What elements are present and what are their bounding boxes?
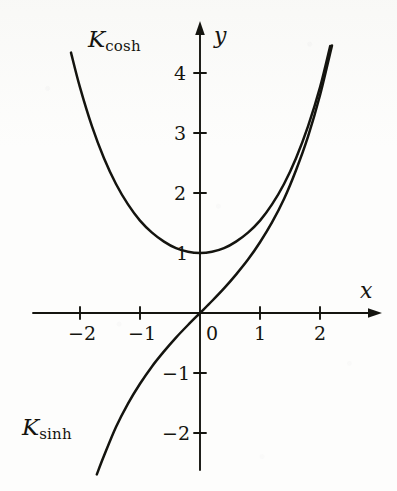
x-tick-label-2: 2 — [314, 324, 326, 343]
y-tick-label-4: 4 — [174, 64, 186, 83]
y-tick-label-3: 3 — [174, 124, 186, 143]
y-axis-label: y — [214, 25, 226, 47]
curve-label-cosh-subscript: cosh — [105, 37, 141, 55]
curve-sinh — [97, 45, 332, 474]
axes-group — [33, 21, 382, 470]
curve-label-sinh-base: K — [22, 414, 39, 440]
curve-label-sinh: Ksinh — [22, 416, 72, 439]
x-axis-arrowhead — [368, 308, 382, 318]
y-tick-label-neg1: −1 — [162, 364, 190, 383]
y-tick-label-1: 1 — [176, 244, 188, 263]
y-tick-label-neg2: −2 — [162, 424, 190, 443]
y-axis-arrowhead — [195, 21, 205, 35]
y-tick-label-2: 2 — [174, 184, 186, 203]
x-tick-label-neg2: −2 — [68, 324, 96, 343]
x-tick-label-1: 1 — [254, 324, 266, 343]
hyperbolic-functions-figure: x y −2 −1 0 1 2 4 3 2 1 −1 −2 Kcosh Ksin… — [0, 0, 397, 491]
x-tick-label-0: 0 — [206, 324, 218, 343]
curve-label-cosh-base: K — [88, 26, 105, 52]
curve-label-sinh-subscript: sinh — [39, 425, 72, 443]
x-axis-label: x — [360, 280, 372, 302]
curve-label-cosh: Kcosh — [88, 28, 141, 51]
x-tick-label-neg1: −1 — [128, 324, 156, 343]
